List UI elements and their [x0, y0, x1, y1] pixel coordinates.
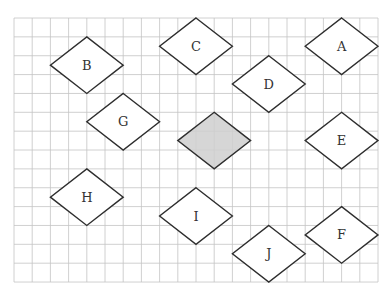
- rhombus-label: E: [337, 133, 347, 148]
- rhombus-e: E: [305, 112, 378, 169]
- rhombus-label: C: [191, 39, 201, 54]
- rhombus-g: G: [87, 93, 160, 150]
- rhombus-c: C: [160, 18, 233, 75]
- rhombus-d: D: [232, 56, 305, 113]
- rhombus-label: H: [81, 190, 92, 205]
- rhombus-label: D: [264, 77, 274, 92]
- rhombus-outline: [178, 112, 251, 169]
- rhombus-a: A: [305, 18, 378, 75]
- rhombus-b: B: [50, 37, 123, 94]
- rhombus-label: F: [337, 227, 346, 242]
- rhombus-f: F: [305, 207, 378, 264]
- rhombus-label: G: [118, 114, 128, 129]
- rhombus-i: I: [160, 188, 233, 245]
- rhombus-j: J: [232, 225, 305, 282]
- rhombus-h: H: [50, 169, 123, 226]
- rhombus-shaded: [178, 112, 251, 169]
- rhombus-label: A: [336, 39, 347, 54]
- rhombus-label: I: [193, 209, 198, 224]
- rhombus-label: J: [264, 246, 271, 261]
- rhombus-label: B: [82, 58, 92, 73]
- grid-diagram: ABCDEFGHIJ: [0, 0, 389, 291]
